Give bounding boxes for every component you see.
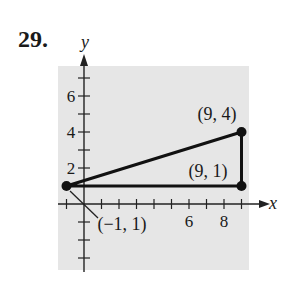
y-tick-label-2: 2 [67, 159, 76, 178]
x-axis-label: x [268, 193, 277, 213]
y-axis-arrow-icon [80, 54, 88, 66]
point-label-9-4: (9, 4) [198, 104, 237, 125]
point-label-neg1-1: (−1, 1) [97, 214, 146, 235]
point-neg1-1 [62, 181, 72, 191]
y-tick-label-4: 4 [67, 123, 76, 142]
point-9-4 [237, 127, 247, 137]
y-axis-label: y [79, 32, 89, 52]
x-tick-label-6: 6 [185, 212, 194, 231]
y-tick-label-6: 6 [67, 87, 76, 106]
coordinate-plot: 6 8 x 6 4 2 y (−1, 1) ( [0, 0, 284, 290]
point-label-9-1: (9, 1) [189, 161, 228, 182]
x-tick-label-8: 8 [220, 212, 229, 231]
point-9-1 [237, 181, 247, 191]
